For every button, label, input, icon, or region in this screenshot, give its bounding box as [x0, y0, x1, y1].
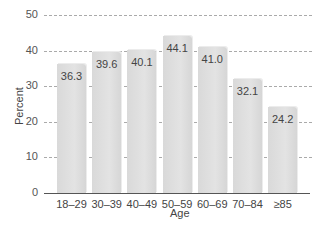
bar-value-label: 40.1 [127, 56, 156, 68]
y-tick-label: 50 [18, 8, 38, 20]
bar: 44.1 [163, 36, 192, 193]
x-tick-label: ≥85 [265, 198, 301, 210]
bar-chart: Percent Age 0102030405036.318–2939.630–3… [0, 0, 318, 236]
bar-value-label: 32.1 [233, 85, 262, 97]
x-tick-label: 70–84 [230, 198, 266, 210]
bar: 36.3 [57, 64, 86, 193]
y-tick-label: 40 [18, 44, 38, 56]
bar: 32.1 [233, 79, 262, 193]
bar-value-label: 36.3 [57, 70, 86, 82]
bar-value-label: 41.0 [198, 53, 227, 65]
y-tick-label: 10 [18, 150, 38, 162]
bar-value-label: 39.6 [92, 58, 121, 70]
bar: 40.1 [127, 50, 156, 193]
x-tick-label: 18–29 [54, 198, 90, 210]
x-tick-label: 30–39 [89, 198, 125, 210]
x-tick-label: 50–59 [159, 198, 195, 210]
gridline [44, 15, 312, 16]
x-axis-line [44, 193, 310, 194]
y-tick-label: 20 [18, 115, 38, 127]
x-tick-label: 60–69 [194, 198, 230, 210]
bar-value-label: 24.2 [268, 113, 297, 125]
bar: 41.0 [198, 47, 227, 193]
y-tick-label: 0 [18, 186, 38, 198]
y-tick-label: 30 [18, 79, 38, 91]
bar-value-label: 44.1 [163, 42, 192, 54]
x-tick-label: 40–49 [124, 198, 160, 210]
bar: 24.2 [268, 107, 297, 193]
bar: 39.6 [92, 52, 121, 193]
